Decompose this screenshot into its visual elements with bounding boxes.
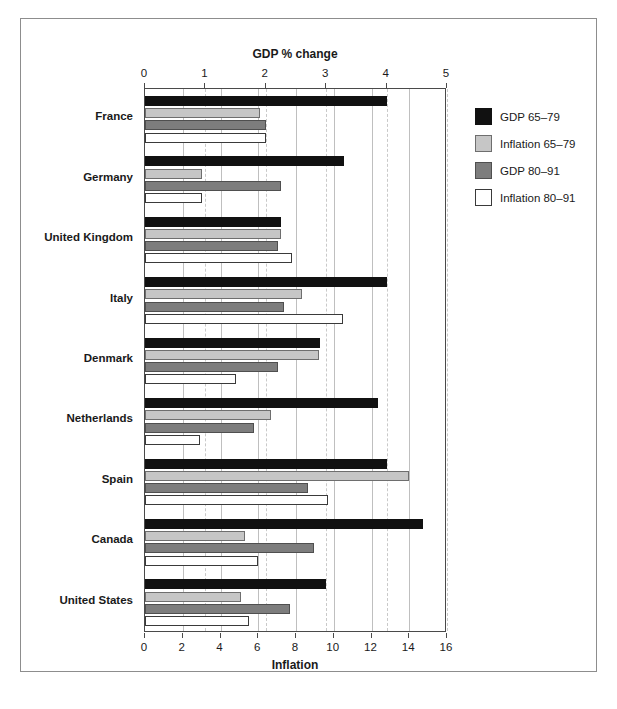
bar [145,435,200,445]
bar [145,217,281,227]
bar [145,410,271,420]
bar [145,519,423,529]
category-label-united-states: United States [21,594,139,606]
bottom-tick-label: 6 [242,641,272,653]
figure-frame: GDP % change 012345 FranceGermanyUnited … [20,18,597,672]
bar-group [145,573,445,633]
bar [145,543,314,553]
bottom-tick-mark [220,633,221,638]
bar [145,289,302,299]
bar [145,169,202,179]
bar [145,531,245,541]
bar [145,483,308,493]
bottom-tick-mark [144,633,145,638]
category-label-spain: Spain [21,473,139,485]
bar [145,133,266,143]
top-tick-label: 3 [310,67,340,79]
bar-group [145,89,445,149]
bar-group [145,452,445,512]
bottom-tick-mark [446,633,447,638]
top-axis-title: GDP % change [144,47,446,61]
top-tick-label: 5 [431,67,461,79]
bar-group [145,512,445,572]
bottom-tick-label: 8 [280,641,310,653]
bar [145,156,344,166]
bar [145,374,236,384]
black-swatch [475,108,492,125]
chart-page: GDP % change 012345 FranceGermanyUnited … [0,0,617,709]
white-swatch [475,189,492,206]
bar [145,108,260,118]
top-tick-label: 4 [371,67,401,79]
top-tick-label: 1 [189,67,219,79]
bar [145,338,320,348]
bottom-tick-label: 16 [431,641,461,653]
light-gray-swatch [475,135,492,152]
legend-item-label: GDP 80–91 [500,165,560,177]
category-labels: FranceGermanyUnited KingdomItalyDenmarkN… [21,88,139,632]
plot-area [144,88,446,632]
top-tick-label: 0 [129,67,159,79]
bar-group [145,391,445,451]
bar [145,229,281,239]
bottom-tick-label: 4 [205,641,235,653]
bar [145,616,249,626]
bottom-tick-label: 2 [167,641,197,653]
bottom-tick-mark [257,633,258,638]
bottom-tick-label: 10 [318,641,348,653]
bar [145,241,278,251]
bottom-tick-mark [182,633,183,638]
bar [145,471,409,481]
bar [145,96,387,106]
category-label-denmark: Denmark [21,352,139,364]
bar [145,314,343,324]
bottom-tick-mark [408,633,409,638]
legend-item[interactable]: GDP 80–91 [475,157,605,184]
bar-group [145,270,445,330]
legend: GDP 65–79Inflation 65–79GDP 80–91Inflati… [475,103,605,211]
legend-item-label: GDP 65–79 [500,111,560,123]
bar-group [145,149,445,209]
bar [145,181,281,191]
legend-item[interactable]: Inflation 80–91 [475,184,605,211]
bottom-tick-label: 0 [129,641,159,653]
bar [145,592,241,602]
dark-gray-swatch [475,162,492,179]
legend-item-label: Inflation 80–91 [500,192,575,204]
bar [145,362,278,372]
top-tick-mark [446,83,447,88]
bar [145,579,326,589]
bottom-tick-label: 14 [393,641,423,653]
category-label-france: France [21,110,139,122]
bottom-tick-label: 12 [356,641,386,653]
bottom-tick-mark [333,633,334,638]
bar [145,495,328,505]
category-label-canada: Canada [21,533,139,545]
gridline-gdp [447,89,448,631]
category-label-germany: Germany [21,171,139,183]
bar [145,556,258,566]
category-label-netherlands: Netherlands [21,412,139,424]
bar [145,604,290,614]
bar [145,120,266,130]
legend-item[interactable]: Inflation 65–79 [475,130,605,157]
category-label-italy: Italy [21,292,139,304]
bottom-axis-title: Inflation [144,658,446,672]
bar [145,277,387,287]
top-tick-label: 2 [250,67,280,79]
bar [145,350,319,360]
category-label-united-kingdom: United Kingdom [21,231,139,243]
legend-item-label: Inflation 65–79 [500,138,575,150]
bar [145,423,254,433]
bottom-tick-mark [295,633,296,638]
bar [145,459,387,469]
bar [145,398,378,408]
bottom-tick-mark [371,633,372,638]
bar [145,302,284,312]
bar [145,253,292,263]
legend-item[interactable]: GDP 65–79 [475,103,605,130]
bar-group [145,210,445,270]
bar-group [145,331,445,391]
bar [145,193,202,203]
